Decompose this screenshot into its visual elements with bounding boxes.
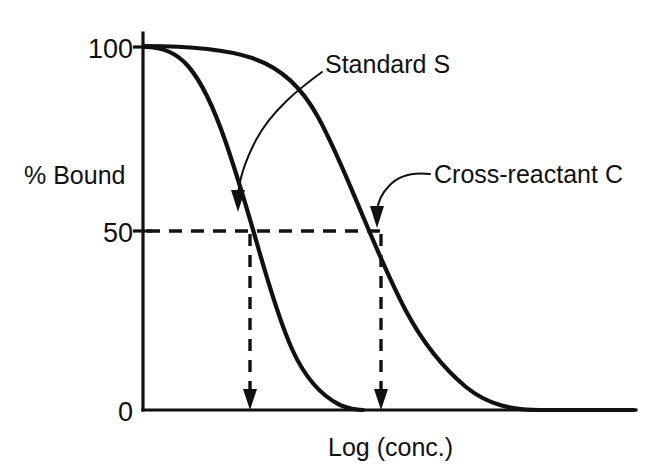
y-tick-label-50: 50: [103, 218, 133, 248]
series-label-cross-reactant: Cross-reactant C: [434, 160, 623, 188]
y-tick-label-0: 0: [118, 397, 133, 427]
plot-background: [0, 0, 648, 475]
chart-figure: 100 50 0 % Bound Log (conc.) Standard S …: [0, 0, 648, 475]
x-axis-title: Log (conc.): [328, 433, 453, 461]
series-label-standard: Standard S: [325, 50, 450, 78]
dose-response-plot: 100 50 0 % Bound Log (conc.) Standard S …: [0, 0, 648, 475]
y-tick-label-100: 100: [88, 34, 133, 64]
y-axis-title: % Bound: [24, 161, 125, 189]
